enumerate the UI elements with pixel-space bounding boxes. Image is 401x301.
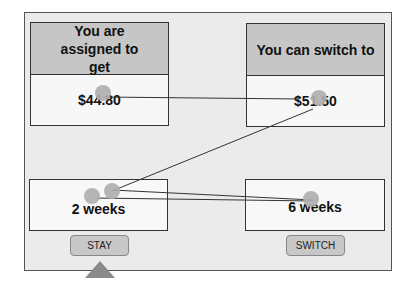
- fixation-dot: [303, 191, 319, 207]
- fixation-dot: [311, 90, 327, 106]
- gaze-overlay: [0, 0, 401, 301]
- fixation-dot: [104, 183, 120, 199]
- saccade-line: [103, 97, 300, 99]
- saccade-line: [112, 109, 313, 191]
- fixation-dot: [95, 85, 111, 101]
- fixation-dot: [84, 188, 100, 204]
- saccade-lines: [95, 97, 313, 201]
- fixation-points: [84, 85, 327, 207]
